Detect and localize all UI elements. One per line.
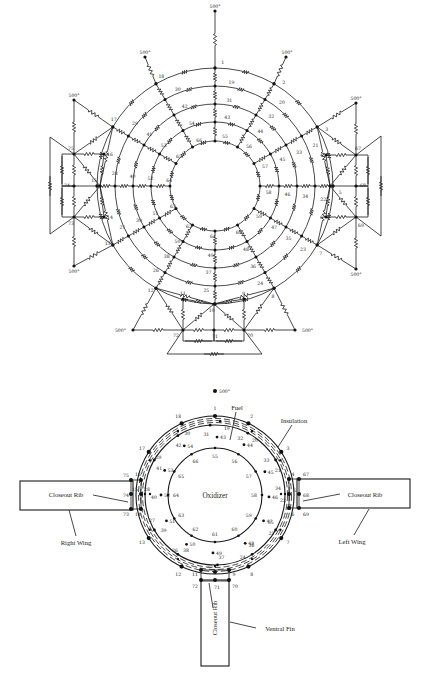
ring-arc [133, 186, 135, 202]
resistor [160, 209, 176, 219]
node-label-51: 51 [153, 211, 159, 216]
ring-arc [174, 108, 189, 115]
node-69 [297, 506, 301, 510]
resistor [133, 184, 151, 187]
node-74 [129, 492, 133, 496]
node-50 [182, 240, 185, 243]
resistor [151, 184, 170, 187]
ring-arc [246, 91, 265, 100]
node-label-4: 4 [292, 472, 295, 477]
node-label-39: 39 [161, 528, 167, 533]
node-label-56: 56 [232, 459, 238, 464]
node-label-65: 65 [178, 474, 184, 479]
resistor [72, 154, 75, 186]
node [242, 328, 245, 331]
node-36 [251, 553, 254, 556]
node-27 [148, 529, 150, 531]
node-30 [177, 430, 179, 432]
node-22 [284, 493, 286, 495]
node-71 [213, 578, 217, 582]
node-label-39: 39 [136, 218, 142, 223]
resistor [156, 84, 165, 100]
resistor [257, 228, 264, 235]
ring-arc [286, 212, 293, 227]
node-label: 71 [212, 334, 218, 339]
resistor [185, 339, 212, 342]
node-label-27: 27 [149, 518, 155, 523]
bottom-tank-cross-section: 1237812131718192021232426272930313233353… [20, 389, 410, 666]
node-label-17: 17 [139, 446, 145, 451]
resistor [274, 288, 295, 330]
node-24 [251, 558, 253, 560]
node-label-73: 73 [123, 512, 129, 517]
node-55 [214, 140, 217, 143]
node-label-31: 31 [226, 98, 232, 103]
resistor [265, 84, 274, 100]
ring-arc [183, 241, 194, 246]
ring-arc [276, 132, 286, 145]
resistor [145, 57, 156, 84]
node-label-6: 6 [292, 512, 295, 517]
node-49 [214, 249, 217, 252]
node-label-46: 46 [285, 192, 291, 197]
ring-arc [135, 84, 156, 99]
node-37 [216, 564, 219, 567]
node-label-58: 58 [266, 190, 272, 195]
resistor [144, 218, 160, 227]
node-29 [127, 135, 130, 138]
node-38 [177, 553, 180, 556]
node-label: 70 [247, 333, 253, 338]
resistor [317, 127, 356, 155]
node [242, 297, 245, 300]
resistor [330, 186, 356, 217]
ring-arc [194, 86, 215, 88]
resistor [247, 115, 256, 131]
node-45 [263, 470, 266, 473]
resistor [184, 87, 194, 91]
node-label-42: 42 [176, 443, 182, 448]
ring-arc [330, 160, 333, 186]
node-46 [268, 495, 271, 498]
ring-arc [199, 104, 215, 106]
node [354, 184, 357, 187]
resistor [292, 160, 296, 170]
resistor [297, 184, 315, 187]
node-64 [167, 494, 170, 497]
node-label-64: 64 [166, 178, 172, 183]
ring-arc [215, 68, 241, 71]
node-26 [177, 558, 179, 560]
ring-arc [215, 86, 236, 88]
resistor [213, 104, 216, 122]
ring-arc [151, 186, 152, 198]
node-label: 74 [64, 183, 70, 188]
node-label-31: 31 [203, 432, 209, 437]
ring-arc [137, 145, 144, 160]
loop [62, 186, 74, 217]
node-label: 11 [180, 291, 186, 296]
resistor [60, 156, 63, 184]
node-58 [261, 494, 264, 497]
node-label-2: 2 [282, 80, 285, 85]
resistor [183, 328, 214, 331]
node-label-8: 8 [272, 294, 275, 299]
loop [356, 186, 368, 217]
resistor [274, 165, 278, 175]
ring-arc [194, 284, 215, 286]
node-17 [147, 450, 151, 454]
node-label-66: 66 [196, 138, 202, 143]
node-16 [139, 478, 143, 482]
node-30 [164, 98, 167, 101]
ring-arc [302, 217, 311, 236]
node-label-30: 30 [175, 87, 181, 92]
node [324, 153, 327, 156]
node-45 [269, 153, 272, 156]
node-24 [264, 271, 267, 274]
node-18 [180, 421, 184, 425]
resistor [213, 250, 216, 268]
node-label-45: 45 [268, 470, 274, 475]
node-label: 73 [68, 221, 74, 226]
node-70 [227, 578, 231, 582]
node-label-50: 50 [190, 542, 196, 547]
resistor [74, 127, 113, 154]
loop [62, 154, 74, 186]
